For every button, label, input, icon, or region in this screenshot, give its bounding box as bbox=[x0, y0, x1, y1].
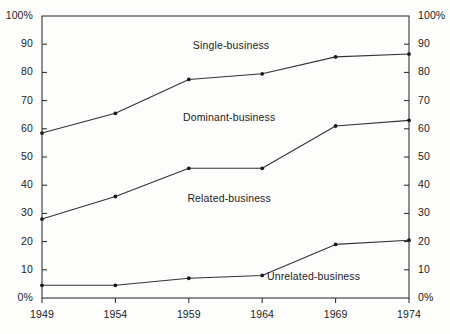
x-axis-tick-label: 1964 bbox=[236, 308, 288, 320]
data-point bbox=[407, 52, 411, 56]
data-point bbox=[40, 217, 44, 221]
line-chart: 100%9080706050403020100% 100%90807060504… bbox=[0, 0, 450, 334]
y-axis-left-tick-label: 0% bbox=[0, 291, 33, 303]
data-point bbox=[334, 55, 338, 59]
y-axis-right-tick-label: 60 bbox=[418, 122, 450, 134]
y-axis-left-tick-label: 40 bbox=[0, 178, 33, 190]
data-point bbox=[187, 166, 191, 170]
data-point bbox=[40, 131, 44, 135]
data-point bbox=[260, 166, 264, 170]
y-axis-right-tick-label: 50 bbox=[418, 150, 450, 162]
y-axis-left-tick-label: 30 bbox=[0, 206, 33, 218]
data-point bbox=[114, 111, 118, 115]
band-label-single-business: Single-business bbox=[193, 39, 269, 51]
y-axis-left-tick-label: 90 bbox=[0, 37, 33, 49]
y-axis-right-tick-label: 80 bbox=[418, 65, 450, 77]
y-axis-left-tick-label: 60 bbox=[0, 122, 33, 134]
data-point bbox=[334, 124, 338, 128]
x-axis-tick-label: 1969 bbox=[310, 308, 362, 320]
y-axis-left-tick-label: 70 bbox=[0, 94, 33, 106]
band-label-unrelated-business: Unrelated-business bbox=[267, 270, 360, 282]
series-markers bbox=[40, 52, 411, 287]
axis-frame bbox=[42, 16, 409, 298]
data-point bbox=[407, 238, 411, 242]
data-point bbox=[260, 72, 264, 76]
y-axis-right-tick-label: 100% bbox=[418, 9, 450, 21]
y-axis-left-tick-label: 100% bbox=[0, 9, 33, 21]
x-axis-tick-label: 1949 bbox=[16, 308, 68, 320]
data-point bbox=[407, 118, 411, 122]
data-point bbox=[114, 283, 118, 287]
y-axis-left-tick-label: 50 bbox=[0, 150, 33, 162]
y-axis-right-tick-label: 0% bbox=[418, 291, 450, 303]
data-point bbox=[40, 283, 44, 287]
y-axis-right-tick-label: 20 bbox=[418, 235, 450, 247]
band-label-related-business: Related-business bbox=[187, 192, 271, 204]
plot-border bbox=[42, 16, 409, 298]
y-axis-right-tick-label: 10 bbox=[418, 263, 450, 275]
x-axis-tick-label: 1974 bbox=[383, 308, 435, 320]
y-axis-left-tick-label: 80 bbox=[0, 65, 33, 77]
y-axis-right-tick-label: 90 bbox=[418, 37, 450, 49]
data-point bbox=[114, 195, 118, 199]
x-axis-tick-label: 1959 bbox=[163, 308, 215, 320]
band-label-dominant-business: Dominant-business bbox=[183, 111, 275, 123]
y-axis-left-tick-label: 10 bbox=[0, 263, 33, 275]
y-axis-right-tick-label: 40 bbox=[418, 178, 450, 190]
y-axis-right-tick-label: 70 bbox=[418, 94, 450, 106]
y-axis-right-tick-label: 30 bbox=[418, 206, 450, 218]
axis-tick-marks bbox=[42, 44, 409, 303]
series-lines bbox=[42, 54, 409, 285]
data-point bbox=[334, 243, 338, 247]
data-point bbox=[187, 78, 191, 82]
data-point bbox=[260, 274, 264, 278]
x-axis-tick-label: 1954 bbox=[89, 308, 141, 320]
data-point bbox=[187, 276, 191, 280]
y-axis-left-tick-label: 20 bbox=[0, 235, 33, 247]
